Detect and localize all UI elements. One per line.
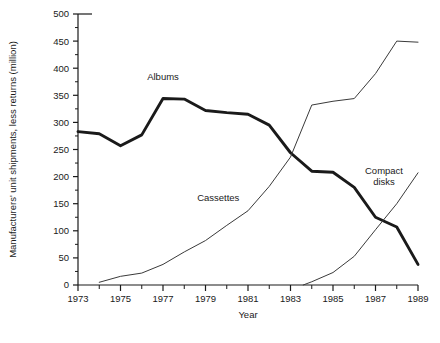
chart-container: 0501001502002503003504004505001973197519… <box>0 0 440 343</box>
y-tick-label: 400 <box>53 63 69 74</box>
x-tick-label: 1985 <box>322 293 343 304</box>
y-tick-label: 0 <box>64 279 69 290</box>
x-tick-label: 1983 <box>280 293 301 304</box>
y-tick-label: 50 <box>58 252 69 263</box>
x-tick-label: 1979 <box>195 293 216 304</box>
x-tick-label: 1981 <box>237 293 258 304</box>
line-chart: 0501001502002503003504004505001973197519… <box>0 0 440 343</box>
x-tick-label: 1975 <box>110 293 131 304</box>
y-axis-title: Manufacturers' unit shipments, less retu… <box>7 41 18 258</box>
y-tick-label: 100 <box>53 225 69 236</box>
x-tick-label: 1987 <box>365 293 386 304</box>
y-tick-label: 500 <box>53 8 69 19</box>
series-line-albums <box>78 99 418 265</box>
y-tick-label: 200 <box>53 171 69 182</box>
x-axis-title: Year <box>238 309 257 320</box>
y-tick-label: 300 <box>53 117 69 128</box>
x-tick-label: 1977 <box>152 293 173 304</box>
x-tick-label: 1989 <box>407 293 428 304</box>
y-tick-label: 150 <box>53 198 69 209</box>
series-line-compact-disks <box>303 173 418 285</box>
series-annotation-compact-disks: disks <box>373 176 395 187</box>
y-tick-label: 350 <box>53 90 69 101</box>
series-annotation-albums: Albums <box>147 71 179 82</box>
y-tick-label: 250 <box>53 144 69 155</box>
series-annotation-cassettes: Cassettes <box>197 192 239 203</box>
x-tick-label: 1973 <box>67 293 88 304</box>
y-tick-label: 450 <box>53 36 69 47</box>
series-annotation-compact-disks: Compact <box>365 165 403 176</box>
